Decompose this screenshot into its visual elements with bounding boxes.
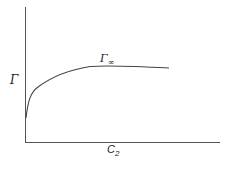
- isotherm-curve: [26, 66, 169, 118]
- x-axis-label: C2: [107, 143, 119, 158]
- x-subscript: 2: [115, 149, 119, 158]
- x-symbol: C: [107, 143, 115, 155]
- y-axis-label: Γ: [10, 73, 18, 87]
- plateau-label: Γ∞: [100, 52, 114, 67]
- plateau-symbol: Γ: [100, 52, 108, 65]
- plateau-subscript: ∞: [108, 58, 115, 67]
